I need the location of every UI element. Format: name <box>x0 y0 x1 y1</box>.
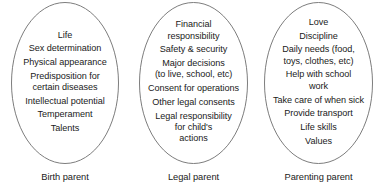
group-caption-birth-parent: Birth parent <box>0 171 133 183</box>
list-item: Other legal consents <box>152 97 234 108</box>
list-item: Physical appearance <box>23 57 106 68</box>
item-list-legal-parent: Financial responsibility Safety & securi… <box>133 0 254 164</box>
group-birth-parent: Life Sex determination Physical appearan… <box>11 0 119 193</box>
item-list-parenting-parent: Love Discipline Daily needs (food, toys,… <box>258 0 379 164</box>
parent-roles-diagram: Life Sex determination Physical appearan… <box>0 0 383 193</box>
group-parenting-parent: Love Discipline Daily needs (food, toys,… <box>264 0 373 193</box>
list-item: Consent for operations <box>148 83 239 94</box>
group-caption-parenting-parent: Parenting parent <box>250 171 383 183</box>
list-item: Life <box>58 30 72 41</box>
list-item: Help with school work <box>286 69 351 92</box>
group-legal-parent: Financial responsibility Safety & securi… <box>139 0 248 193</box>
item-list-birth-parent: Life Sex determination Physical appearan… <box>5 0 125 164</box>
list-item: Financial responsibility <box>168 19 220 42</box>
list-item: Take care of when sick <box>273 95 364 106</box>
list-item: Discipline <box>299 31 337 42</box>
list-item: Life skills <box>300 122 336 133</box>
list-item: Talents <box>51 123 79 134</box>
list-item: Legal responsibility for child's actions <box>155 111 231 145</box>
group-caption-legal-parent: Legal parent <box>125 171 262 183</box>
list-item: Temperament <box>37 109 92 120</box>
list-item: Predisposition for certain diseases <box>30 71 99 94</box>
list-item: Provide transport <box>284 108 352 119</box>
list-item: Sex determination <box>29 43 101 54</box>
list-item: Major decisions (to live, school, etc) <box>155 58 232 81</box>
list-item: Safety & security <box>160 44 227 55</box>
list-item: Daily needs (food, toys, clothes, etc) <box>282 44 354 67</box>
list-item: Values <box>305 136 332 147</box>
list-item: Love <box>309 17 329 28</box>
list-item: Intellectual potential <box>25 96 104 107</box>
